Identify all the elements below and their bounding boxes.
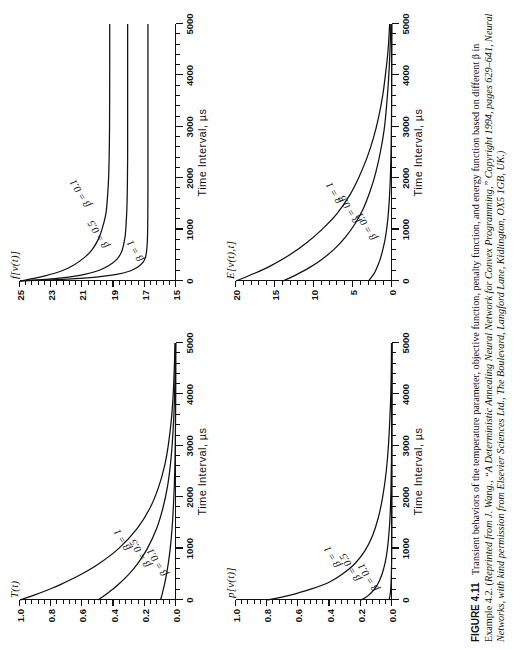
y-tick-label: 0.2 [355,609,366,622]
y-tick-minor [247,600,248,604]
y-tick-minor [138,281,139,285]
x-tick-minor [392,435,396,436]
x-tick-major [176,126,183,127]
y-tick-major [391,281,392,288]
y-tick-minor [69,600,70,604]
y-tick-major [352,281,353,288]
x-tick-label: 5000 [400,332,411,353]
x-axis-title: Time Interval, µs [412,428,424,516]
x-tick-minor [176,506,180,507]
x-tick-label: 5000 [184,332,195,353]
x-tick-minor [176,527,180,528]
y-tick-minor [297,281,298,285]
y-tick-minor [290,281,291,285]
y-tick-label: 0.4 [324,609,335,622]
y-tick-minor [88,600,89,604]
x-tick-minor [392,506,396,507]
y-tick-minor [63,600,64,604]
y-tick-minor [260,600,261,604]
y-tick-minor [31,281,32,285]
y-tick-major [235,281,236,288]
x-tick-label: 3000 [400,435,411,456]
x-tick-minor [176,537,180,538]
y-tick-minor [150,281,151,285]
x-tick-label: 5000 [400,13,411,34]
x-tick-minor [392,476,396,477]
y-axis-label-energy-function: E[v(t),t] [224,241,236,279]
curve-0.5 [98,343,175,600]
y-tick-label: 21 [77,290,88,301]
y-tick-minor [251,281,252,285]
y-tick-major [175,600,176,607]
x-tick-major [392,496,399,497]
x-tick-major [176,342,183,343]
y-tick-label: 0.4 [108,609,119,622]
y-tick-major [328,600,329,607]
y-tick-minor [94,600,95,604]
x-tick-minor [176,54,180,55]
x-tick-minor [176,558,180,559]
y-tick-minor [106,281,107,285]
x-tick-minor [176,363,180,364]
x-tick-minor [392,424,396,425]
x-tick-minor [392,589,396,590]
y-tick-label: 0.0 [171,609,182,622]
y-tick-minor [169,281,170,285]
x-tick-minor [176,259,180,260]
x-tick-minor [176,352,180,353]
y-tick-minor [131,600,132,604]
x-tick-major [392,342,399,343]
y-tick-minor [375,281,376,285]
y-tick-minor [100,600,101,604]
y-tick-minor [75,281,76,285]
x-tick-minor [176,64,180,65]
x-tick-minor [392,116,396,117]
x-tick-minor [176,85,180,86]
x-tick-minor [392,249,396,250]
x-tick-major [176,393,183,394]
x-tick-minor [392,208,396,209]
y-tick-minor [56,281,57,285]
caption-spacer [470,575,481,583]
x-tick-label: 3000 [184,116,195,137]
x-tick-minor [392,105,396,106]
x-tick-major [176,23,183,24]
y-tick-label: 0.6 [77,609,88,622]
y-tick-minor [25,600,26,604]
x-tick-minor [392,455,396,456]
x-tick-minor [176,373,180,374]
x-tick-label: 2000 [184,168,195,189]
x-tick-major [176,74,183,75]
y-tick-label: 0.8 [46,609,57,622]
y-tick-minor [372,600,373,604]
x-tick-minor [176,157,180,158]
x-tick-minor [176,383,180,384]
x-tick-minor [176,465,180,466]
x-tick-label: 2000 [400,487,411,508]
x-tick-minor [176,33,180,34]
x-tick-minor [392,64,396,65]
y-tick-minor [156,281,157,285]
y-tick-minor [125,600,126,604]
x-tick-minor [176,568,180,569]
y-tick-label: 0.6 [293,609,304,622]
y-tick-label: 17 [139,290,150,301]
x-tick-minor [392,373,396,374]
x-tick-label: 2000 [184,487,195,508]
x-tick-label: 1000 [400,538,411,559]
y-tick-major [144,281,145,288]
x-tick-minor [392,270,396,271]
plot-area-energy-function: Time Interval, µs 0510152001000200030004… [236,24,392,281]
x-tick-minor [176,270,180,271]
x-tick-minor [392,239,396,240]
y-tick-major [50,281,51,288]
x-tick-minor [176,249,180,250]
y-tick-minor [366,600,367,604]
x-tick-minor [176,198,180,199]
x-tick-minor [176,44,180,45]
x-tick-minor [392,414,396,415]
x-tick-minor [176,136,180,137]
y-tick-minor [304,600,305,604]
x-tick-minor [176,239,180,240]
x-tick-major [392,280,399,281]
